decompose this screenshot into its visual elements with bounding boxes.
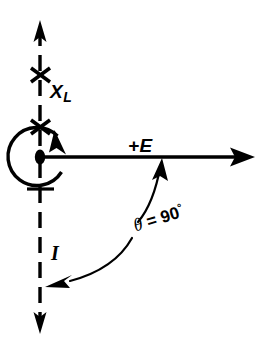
angle-arc-lower-arrowhead	[45, 275, 72, 288]
diagram-canvas	[0, 0, 267, 345]
label-current: I	[51, 243, 59, 263]
label-voltage: +E	[128, 136, 153, 155]
label-inductive-reactance: XL	[50, 82, 72, 104]
angle-arc-upper-arrowhead	[152, 158, 168, 181]
label-xl-subscript: L	[63, 89, 72, 105]
label-xl-base: X	[50, 81, 63, 102]
angle-arc-lower-segment	[70, 238, 132, 281]
phasor-diagram-figure: XL +E I θ = 90°	[0, 0, 267, 345]
origin-point	[35, 150, 45, 165]
